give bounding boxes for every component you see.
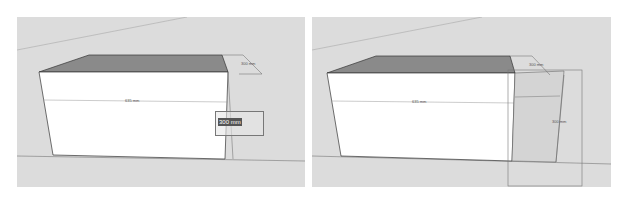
width-dimension-label: 635 mm xyxy=(125,98,139,103)
depth-dimension-label: 300 mm xyxy=(241,61,255,66)
viewport-right[interactable]: 300 mm 635 mm 300 mm xyxy=(312,17,611,187)
width-dimension-label: 635 mm xyxy=(412,99,426,104)
measurement-input-value[interactable]: 300 mm xyxy=(218,118,242,126)
extruded-side-face[interactable] xyxy=(512,71,564,162)
box-front-face[interactable] xyxy=(39,72,228,159)
box-top-face[interactable] xyxy=(39,55,228,72)
horizon-line xyxy=(17,17,187,50)
model-canvas-left[interactable] xyxy=(17,17,305,187)
viewport-left[interactable]: 300 mm 635 mm 300 mm xyxy=(17,17,305,187)
model-canvas-right[interactable] xyxy=(312,17,611,187)
measurement-input-box[interactable]: 300 mm xyxy=(215,111,264,136)
box-front-face[interactable] xyxy=(327,73,515,161)
horizon-line xyxy=(312,17,482,50)
height-dimension-label: 300 mm xyxy=(552,119,566,124)
box-top-face[interactable] xyxy=(327,56,515,73)
depth-dimension-label: 300 mm xyxy=(529,62,543,67)
